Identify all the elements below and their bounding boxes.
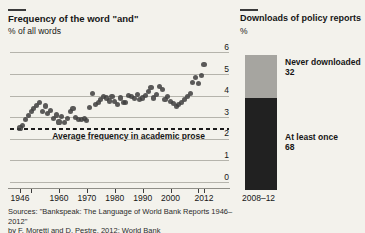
right-chart-subtitle: % <box>240 26 248 36</box>
x-axis-label-1946: 1946 <box>5 193 35 203</box>
sources-note: Sources: "Bankspeak: The Language of Wor… <box>8 207 248 233</box>
bar-segment-label-once: At least once 68 <box>285 132 361 152</box>
data-point <box>148 85 153 90</box>
bar-segment-1 <box>245 98 277 190</box>
bar-segment-label-never: Never downloaded 32 <box>285 57 361 77</box>
gridline-y-1 <box>10 160 229 161</box>
reference-line <box>10 128 229 130</box>
bar-segment-value-once: 68 <box>285 142 361 152</box>
gridline-y-6 <box>10 52 229 53</box>
data-point <box>90 91 95 96</box>
title-rule-left <box>8 9 26 11</box>
data-point <box>40 109 45 114</box>
data-point <box>107 98 112 103</box>
bar-segment-name-once: At least once <box>285 132 361 142</box>
y-axis-label-3: 3 <box>215 107 229 117</box>
data-point <box>70 106 75 111</box>
data-point <box>37 100 42 105</box>
data-point <box>48 108 53 113</box>
sources-line-1: Sources: "Bankspeak: The Language of Wor… <box>8 207 248 226</box>
data-point <box>87 105 92 110</box>
x-axis-label-1990: 1990 <box>128 193 158 203</box>
x-axis-label-1980: 1980 <box>100 193 130 203</box>
data-point <box>84 118 89 123</box>
data-point <box>65 116 70 121</box>
right-chart-title: Downloads of policy reports <box>240 13 361 23</box>
data-point <box>201 62 206 67</box>
left-chart-subtitle: % of all words <box>8 26 61 36</box>
y-axis-label-4: 4 <box>215 85 229 95</box>
x-axis-line <box>8 188 230 189</box>
x-axis-label-2000: 2000 <box>156 193 186 203</box>
sources-line-2: by F. Moretti and D. Pestre, 2012; World… <box>8 226 248 233</box>
data-point <box>196 81 201 86</box>
data-point <box>54 112 59 117</box>
data-point <box>43 103 48 108</box>
data-point <box>193 75 198 80</box>
y-axis-label-5: 5 <box>215 64 229 74</box>
bar-category-label: 2008–12 <box>242 193 275 203</box>
page: Frequency of the word "and" % of all wor… <box>0 0 365 233</box>
data-point <box>160 87 165 92</box>
y-axis-label-0: 0 <box>215 172 229 182</box>
data-point <box>123 100 128 105</box>
gridline-y-3 <box>10 117 229 118</box>
x-axis-label-1970: 1970 <box>72 193 102 203</box>
data-point <box>190 80 195 85</box>
x-axis-label-1960: 1960 <box>44 193 74 203</box>
data-point <box>56 119 61 124</box>
bar-segment-name-never: Never downloaded <box>285 57 361 67</box>
data-point <box>199 73 204 78</box>
bar-segment-0 <box>245 55 277 98</box>
gridline-y-0 <box>10 182 229 183</box>
y-axis-label-1: 1 <box>215 150 229 160</box>
bar-segment-value-never: 32 <box>285 67 361 77</box>
data-point <box>188 91 193 96</box>
y-axis-label-6: 6 <box>215 42 229 52</box>
data-point <box>115 102 120 107</box>
x-axis-label-2012: 2012 <box>189 193 219 203</box>
left-chart-title: Frequency of the word "and" <box>8 13 138 24</box>
gridline-y-2 <box>10 139 229 140</box>
title-rule-right <box>240 9 258 11</box>
